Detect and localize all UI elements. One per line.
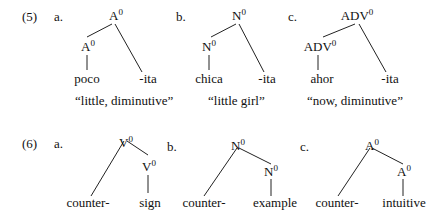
gloss-5b: “little girl” bbox=[208, 94, 265, 108]
bar-level: 0 bbox=[151, 158, 156, 168]
tree-branches bbox=[0, 0, 442, 224]
node-label: N bbox=[264, 164, 273, 179]
node-label: A bbox=[365, 138, 374, 153]
tree-5a-left-leaf: poco bbox=[74, 72, 99, 86]
node-label: ADV bbox=[304, 39, 332, 54]
gloss-5a: “little, diminutive” bbox=[75, 94, 173, 108]
bar-level: 0 bbox=[374, 137, 379, 147]
tree-5b-left-node: N0 bbox=[202, 40, 216, 54]
tree-5b-left-leaf: chica bbox=[195, 72, 222, 86]
tree-6a-left-leaf: counter- bbox=[66, 196, 109, 210]
tree-6c-right-leaf: intuitive bbox=[382, 196, 425, 210]
node-label: ADV bbox=[341, 8, 369, 23]
tree-5a-root-node: A0 bbox=[109, 9, 123, 23]
tree-5c-root-node: ADV0 bbox=[341, 9, 374, 23]
tree-5b-right-leaf: -ita bbox=[258, 72, 275, 86]
node-label: A bbox=[81, 39, 90, 54]
tree-6a-right-node: V0 bbox=[142, 160, 156, 174]
bar-level: 0 bbox=[118, 7, 123, 17]
item-6a-letter: a. bbox=[54, 137, 63, 151]
tree-5a-right-leaf: -ita bbox=[139, 72, 156, 86]
node-label: V bbox=[142, 159, 151, 174]
item-6b-letter: b. bbox=[167, 140, 177, 154]
tree-5c-right-leaf: -ita bbox=[381, 72, 398, 86]
item-5b-letter: b. bbox=[176, 10, 186, 24]
item-5c-letter: c. bbox=[288, 10, 297, 24]
tree-5c-left-node: ADV0 bbox=[304, 40, 337, 54]
tree-6c-right-node: A0 bbox=[397, 165, 411, 179]
node-label: A bbox=[397, 164, 406, 179]
tree-6a-right-leaf: sign bbox=[139, 196, 161, 210]
tree-6a-root-node: V0 bbox=[119, 136, 133, 150]
bar-level: 0 bbox=[241, 7, 246, 17]
tree-6b-right-leaf: example bbox=[253, 196, 297, 210]
tree-6b-root-node: N0 bbox=[231, 139, 245, 153]
tree-6c-root-node: A0 bbox=[365, 139, 379, 153]
bar-level: 0 bbox=[273, 163, 278, 173]
bar-level: 0 bbox=[128, 134, 133, 144]
item-5a-letter: a. bbox=[54, 10, 63, 24]
node-label: A bbox=[109, 8, 118, 23]
node-label: N bbox=[232, 8, 241, 23]
tree-5a-left-node: A0 bbox=[81, 40, 95, 54]
tree-6c-left-leaf: counter- bbox=[315, 196, 358, 210]
bar-level: 0 bbox=[90, 38, 95, 48]
example-number-6: (6) bbox=[22, 137, 37, 151]
node-label: N bbox=[231, 138, 240, 153]
bar-level: 0 bbox=[240, 137, 245, 147]
item-6c-letter: c. bbox=[300, 140, 309, 154]
tree-5c-left-leaf: ahor bbox=[310, 72, 333, 86]
example-number-5: (5) bbox=[22, 10, 37, 24]
tree-5b-root-node: N0 bbox=[232, 9, 246, 23]
tree-6b-left-leaf: counter- bbox=[182, 196, 225, 210]
node-label: N bbox=[202, 39, 211, 54]
bar-level: 0 bbox=[332, 38, 337, 48]
bar-level: 0 bbox=[211, 38, 216, 48]
node-label: V bbox=[119, 135, 128, 150]
bar-level: 0 bbox=[406, 163, 411, 173]
tree-6b-right-node: N0 bbox=[264, 165, 278, 179]
gloss-5c: “now, diminutive” bbox=[307, 94, 403, 108]
bar-level: 0 bbox=[369, 7, 374, 17]
